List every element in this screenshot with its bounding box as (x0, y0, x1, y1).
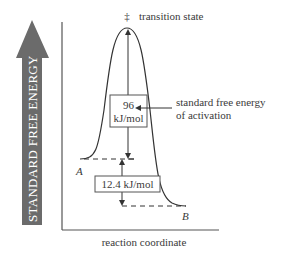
transition-state-label: transition state (139, 10, 204, 22)
transition-state-symbol: ‡ (124, 10, 130, 22)
activation-energy-unit: kJ/mol (114, 112, 144, 124)
activation-callout-line2: of activation (176, 109, 232, 121)
reaction-energy-value: 12.4 kJ/mol (102, 178, 154, 190)
activation-callout-line1: standard free energy (176, 96, 266, 108)
energy-arrow: STANDARD FREE ENERGY (16, 20, 49, 225)
energy-diagram: STANDARD FREE ENERGY 96 kJ/mol standard … (0, 0, 286, 254)
y-axis-label: STANDARD FREE ENERGY (25, 55, 40, 222)
x-axis-label: reaction coordinate (102, 236, 187, 248)
activation-energy-value: 96 (123, 99, 135, 111)
state-b-label: B (182, 210, 189, 222)
state-a-label: A (75, 165, 83, 177)
